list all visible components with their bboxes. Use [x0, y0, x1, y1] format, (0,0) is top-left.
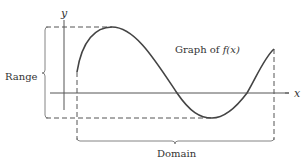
- curve-label-func: f(x): [222, 44, 240, 55]
- domain-label: Domain: [157, 148, 197, 159]
- function-graph-diagram: x y Range Domain Graph of f(x): [0, 0, 308, 162]
- domain-bracket: [77, 138, 274, 144]
- x-axis-label: x: [294, 87, 301, 100]
- range-bracket: [42, 27, 48, 118]
- curve-label: Graph of f(x): [175, 44, 240, 55]
- range-label: Range: [5, 71, 38, 82]
- y-axis-label: y: [60, 7, 68, 20]
- curve-label-prefix: Graph of: [175, 44, 223, 55]
- function-curve: [77, 27, 274, 118]
